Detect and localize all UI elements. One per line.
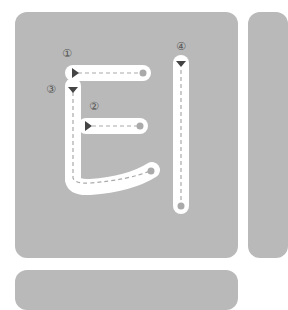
next-card-edge bbox=[248, 12, 288, 258]
stroke-4-end-dot bbox=[178, 203, 185, 210]
stroke-3-end-dot bbox=[148, 168, 155, 175]
stroke-order-2: ② bbox=[89, 100, 99, 113]
stroke-3-path bbox=[73, 86, 152, 187]
below-card-edge bbox=[15, 270, 238, 310]
stroke-order-4: ④ bbox=[176, 40, 186, 53]
stroke-order-3: ③ bbox=[46, 83, 56, 96]
stroke-order-1: ① bbox=[62, 47, 72, 60]
stroke-2-end-dot bbox=[137, 123, 144, 130]
character-strokes bbox=[73, 63, 181, 206]
stroke-1-end-dot bbox=[140, 70, 147, 77]
